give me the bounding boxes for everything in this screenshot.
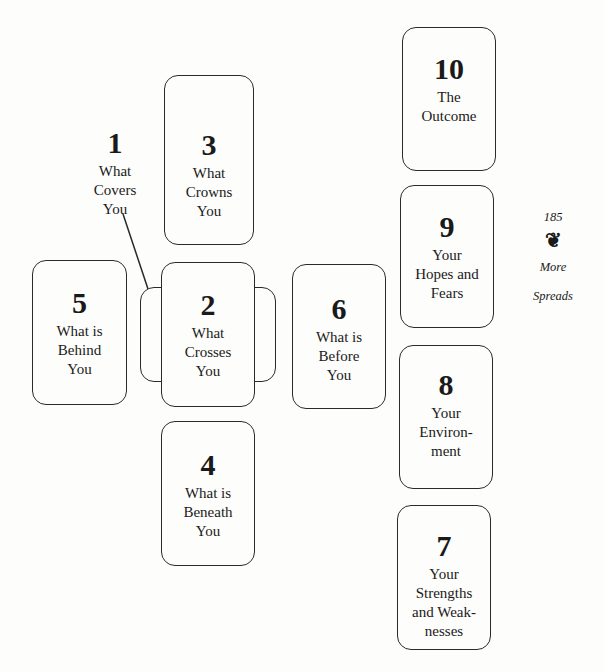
card-meaning: Your Strengths and Weak- nesses bbox=[398, 565, 490, 641]
card-number: 7 bbox=[398, 531, 490, 561]
card-5: 5 What is Behind You bbox=[32, 260, 127, 405]
card-meaning: What Covers You bbox=[70, 162, 160, 219]
card-2: 2 What Crosses You bbox=[161, 262, 255, 407]
card-number: 5 bbox=[33, 288, 126, 318]
card-meaning: What is Beneath You bbox=[162, 484, 254, 541]
card-3: 3 What Crowns You bbox=[164, 75, 254, 245]
ornament-icon: ❦ bbox=[528, 228, 578, 252]
card-6: 6 What is Before You bbox=[292, 264, 386, 409]
card-meaning: What Crowns You bbox=[165, 164, 253, 221]
card-meaning: Your Environ- ment bbox=[400, 404, 492, 461]
card-8: 8 Your Environ- ment bbox=[399, 345, 493, 489]
card-1-label: 1 What Covers You bbox=[70, 128, 160, 219]
card-number: 3 bbox=[165, 130, 253, 160]
card-number: 8 bbox=[400, 370, 492, 400]
card-9: 9 Your Hopes and Fears bbox=[400, 185, 494, 328]
card-meaning: Your Hopes and Fears bbox=[401, 246, 493, 303]
card-number: 4 bbox=[162, 450, 254, 480]
card-7: 7 Your Strengths and Weak- nesses bbox=[397, 505, 491, 650]
card-meaning: What is Before You bbox=[293, 328, 385, 385]
card-number: 1 bbox=[70, 128, 160, 158]
card-number: 10 bbox=[403, 54, 495, 84]
card-number: 9 bbox=[401, 212, 493, 242]
card-meaning: What Crosses You bbox=[162, 324, 254, 381]
card-meaning: The Outcome bbox=[403, 88, 495, 126]
card-number: 2 bbox=[162, 290, 254, 320]
card-meaning: What is Behind You bbox=[33, 322, 126, 379]
card-4: 4 What is Beneath You bbox=[161, 421, 255, 566]
section-title-line1: More bbox=[528, 260, 578, 275]
card-10: 10 The Outcome bbox=[402, 27, 496, 171]
card-number: 6 bbox=[293, 294, 385, 324]
section-title-line2: Spreads bbox=[528, 289, 578, 304]
page-number: 185 bbox=[528, 210, 578, 225]
